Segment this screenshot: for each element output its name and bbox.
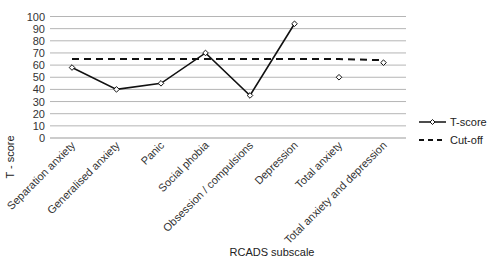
y-tick-label: 10: [33, 120, 45, 132]
y-tick-label: 50: [33, 71, 45, 83]
rcads-chart: 0102030405060708090100 Separation anxiet…: [0, 0, 497, 267]
legend-label-cutoff: Cut-off: [450, 134, 484, 146]
diamond-marker-icon: [430, 120, 435, 125]
cutoff-series: [72, 59, 384, 60]
x-axis-label: RCADS subscale: [230, 246, 315, 258]
cutoff-line: [72, 59, 384, 60]
x-axis-category-labels: Separation anxietyGeneralised anxietyPan…: [4, 138, 388, 246]
gridlines: [50, 17, 406, 139]
y-tick-label: 100: [27, 11, 45, 23]
y-axis-label: T - score: [4, 135, 16, 178]
legend: T-score Cut-off: [419, 116, 487, 146]
y-axis-ticks: 0102030405060708090100: [27, 11, 45, 145]
legend-label-tscore: T-score: [450, 116, 487, 128]
y-tick-label: 0: [39, 132, 45, 144]
diamond-marker-icon: [336, 74, 342, 80]
y-tick-label: 30: [33, 96, 45, 108]
x-category-label: Panic: [138, 139, 166, 167]
y-tick-label: 80: [33, 35, 45, 47]
y-tick-label: 70: [33, 47, 45, 59]
diamond-marker-icon: [114, 87, 120, 93]
x-category-label: Obsession / compulsions: [160, 139, 255, 234]
x-category-label: Depression: [252, 139, 300, 187]
y-tick-label: 90: [33, 23, 45, 35]
legend-item-cutoff: Cut-off: [419, 134, 484, 146]
legend-item-tscore: T-score: [419, 116, 487, 128]
y-tick-label: 60: [33, 59, 45, 71]
y-tick-label: 40: [33, 83, 45, 95]
y-tick-label: 20: [33, 108, 45, 120]
